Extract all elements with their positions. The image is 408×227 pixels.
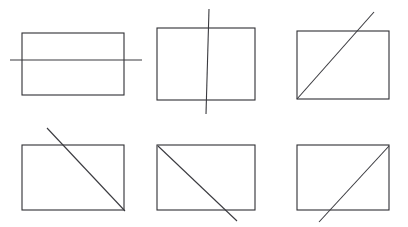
canvas-background — [0, 0, 408, 227]
figure-sheet: Rectangle and line figure grid Six line … — [0, 0, 408, 227]
figure-canvas: Rectangle and line figure grid Six line … — [0, 0, 408, 227]
